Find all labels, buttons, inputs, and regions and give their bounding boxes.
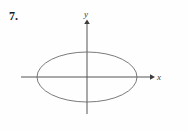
y-axis-label: y [83,9,88,19]
x-axis-arrow-icon [150,74,155,80]
ellipse-plot: y x [0,0,188,131]
figure-container: 7. y x [0,0,188,131]
x-axis-label: x [156,72,161,82]
y-axis-arrow-icon [84,20,90,25]
